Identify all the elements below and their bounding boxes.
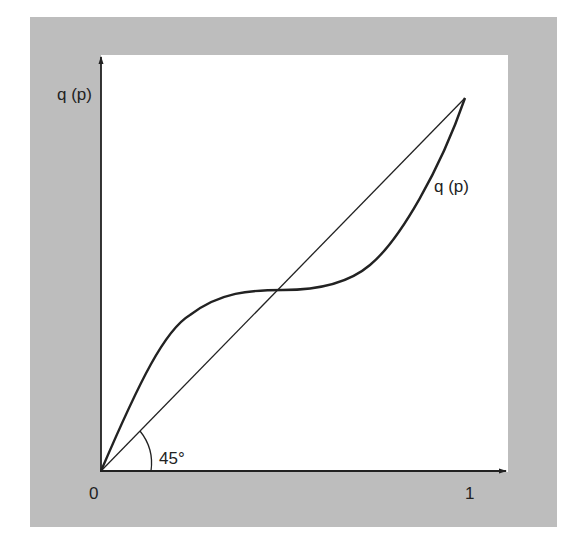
y-axis-label: q (p) bbox=[57, 86, 92, 103]
curve-label: q (p) bbox=[434, 178, 469, 195]
x-end-label: 1 bbox=[465, 485, 474, 502]
angle-arc bbox=[140, 431, 152, 471]
angle-label: 45° bbox=[159, 450, 185, 467]
origin-label: 0 bbox=[89, 485, 98, 502]
diagonal-45-line bbox=[101, 98, 465, 471]
figure-svg bbox=[0, 0, 579, 555]
